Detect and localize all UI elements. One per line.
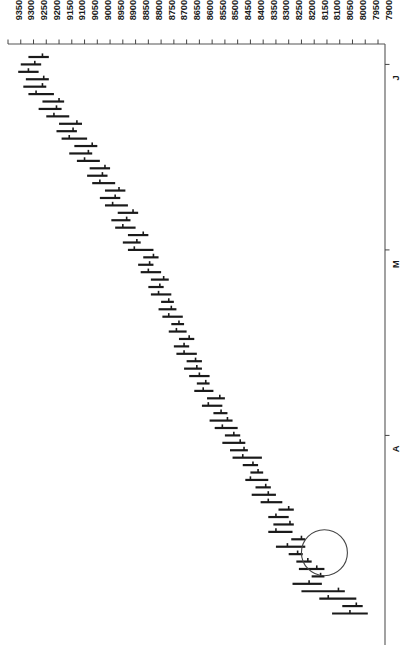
ohlc-bar — [128, 246, 154, 250]
ohlc-bar — [105, 187, 125, 191]
ohlc-bar — [138, 261, 153, 265]
ohlc-bar — [28, 91, 54, 95]
ohlc-bar — [169, 328, 187, 332]
ohlc-bar — [174, 343, 189, 347]
ohlc-bar — [332, 610, 368, 614]
ohlc-bar — [74, 142, 97, 146]
chart-page: Dow Jones Futures Daily Bar Chart 935093… — [0, 0, 407, 649]
ohlc-bar — [256, 484, 271, 488]
ohlc-bar — [213, 410, 227, 414]
ohlc-bar — [207, 395, 225, 399]
ohlc-bar — [319, 595, 356, 599]
ohlc-bar — [141, 269, 161, 273]
ohlc-bar — [26, 76, 49, 80]
ohlc-bar — [18, 68, 38, 72]
ohlc-bar — [111, 217, 130, 221]
ohlc-bar — [293, 580, 322, 584]
ohlc-bar — [184, 365, 202, 369]
ohlc-bar — [28, 53, 48, 57]
ohlc-bar — [252, 491, 276, 495]
ohlc-bar — [39, 105, 62, 109]
ohlc-bar — [69, 150, 92, 154]
bar-chart-plot — [0, 0, 407, 649]
bars-group — [18, 53, 368, 613]
ohlc-bar — [289, 551, 303, 555]
ohlc-bar — [296, 558, 311, 562]
ohlc-bar — [46, 113, 69, 117]
ohlc-bar — [197, 380, 210, 384]
ohlc-bar — [179, 335, 194, 339]
ohlc-bar — [90, 165, 110, 169]
ohlc-bar — [278, 506, 293, 510]
ohlc-bar — [23, 83, 46, 87]
ohlc-bar — [92, 180, 115, 184]
ohlc-bar — [215, 424, 238, 428]
ohlc-bar — [159, 306, 177, 310]
ohlc-bar — [162, 313, 182, 317]
ohlc-bar — [230, 447, 248, 451]
ohlc-bar — [148, 283, 163, 287]
ohlc-bar — [151, 291, 171, 295]
ohlc-bar — [115, 224, 135, 228]
ohlc-bar — [301, 588, 344, 592]
ohlc-bar — [268, 513, 288, 517]
ohlc-bar — [77, 157, 100, 161]
ohlc-bar — [62, 135, 88, 139]
ohlc-bar — [161, 298, 174, 302]
ohlc-bar — [268, 528, 292, 532]
ohlc-bar — [143, 254, 158, 258]
ohlc-bar — [194, 387, 213, 391]
ohlc-bar — [21, 61, 41, 65]
ohlc-bar — [250, 469, 263, 473]
ohlc-bar — [222, 439, 245, 443]
ohlc-bar — [123, 239, 141, 243]
ohlc-bar — [176, 350, 196, 354]
ohlc-bar — [128, 231, 148, 235]
ohlc-bar — [243, 462, 258, 466]
ohlc-bar — [171, 321, 184, 325]
ohlc-bar — [118, 209, 138, 213]
ohlc-bar — [276, 543, 305, 547]
ohlc-bar — [202, 402, 222, 406]
ohlc-bar — [59, 120, 82, 124]
ohlc-bar — [56, 128, 76, 132]
ohlc-bar — [291, 536, 305, 540]
ohlc-bar — [245, 476, 268, 480]
ohlc-bar — [273, 521, 293, 525]
ohlc-bar — [342, 602, 362, 606]
ohlc-bar — [225, 432, 240, 436]
ohlc-bar — [151, 276, 169, 280]
ohlc-bar — [299, 565, 325, 569]
ohlc-bar — [261, 499, 283, 503]
ohlc-bar — [210, 417, 233, 421]
ohlc-bar — [87, 172, 107, 176]
ohlc-bar — [187, 358, 202, 362]
ohlc-bar — [100, 194, 120, 198]
ohlc-bar — [233, 454, 262, 458]
ohlc-bar — [189, 372, 209, 376]
ohlc-bar — [105, 202, 128, 206]
ohlc-bar — [42, 98, 64, 102]
